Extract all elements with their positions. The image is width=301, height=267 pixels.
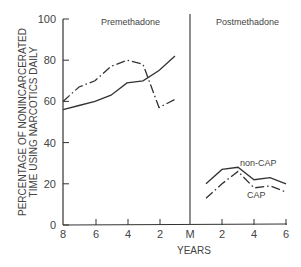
series-line-pre-non-cap [63,56,175,110]
y-tick-label: 100 [38,13,56,25]
y-ticks: 020406080100 [38,13,69,231]
series-lines [63,56,286,198]
x-tick-label: 2 [157,228,163,240]
x-tick-label: 6 [93,228,99,240]
svg-text:PERCENTAGE OF NONINCARCERATED: PERCENTAGE OF NONINCARCERATED [17,28,28,216]
svg-text:TIME USING NARCOTICS DAILY: TIME USING NARCOTICS DAILY [28,46,39,197]
x-tick-label: 6 [283,228,289,240]
series-label-noncap: non-CAP [240,158,277,168]
x-tick-label: 8 [60,228,66,240]
y-tick-label: 40 [44,137,56,149]
x-tick-label: 4 [125,228,131,240]
panel-label-premethadone: Premethadone [101,17,160,27]
y-tick-label: 80 [44,54,56,66]
x-tick-label: 2 [219,228,225,240]
x-tick-label: M [185,228,194,240]
x-ticks: 8642M246 [60,219,289,240]
chart: 020406080100 8642M246 Premethadone Postm… [0,0,301,267]
x-axis-label: YEARS [177,245,211,256]
y-tick-label: 60 [44,95,56,107]
series-line-post-cap [206,171,286,198]
panel-label-postmethadone: Postmethadone [216,17,279,27]
y-tick-label: 0 [50,219,56,231]
x-axis [63,224,287,225]
series-line-pre-cap [63,60,175,107]
y-tick-label: 20 [44,178,56,190]
x-tick-label: 4 [251,228,257,240]
series-label-cap: CAP [247,190,266,200]
y-axis-label: PERCENTAGE OF NONINCARCERATED TIME USING… [17,28,39,216]
series-line-post-non-cap [206,167,286,184]
